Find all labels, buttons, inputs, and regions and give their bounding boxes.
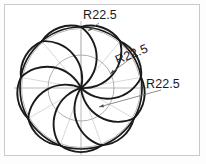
technical-drawing: R22.5 R22.5 R22.5 [0, 0, 206, 164]
screenshot-canvas: R22.5 R22.5 R22.5 [0, 0, 206, 164]
leader-arrowhead [99, 104, 104, 107]
dimension-label-lower: R22.5 [146, 77, 180, 91]
dimension-label-middle: R22.5 [113, 41, 150, 67]
dimension-label-top: R22.5 [83, 8, 117, 22]
